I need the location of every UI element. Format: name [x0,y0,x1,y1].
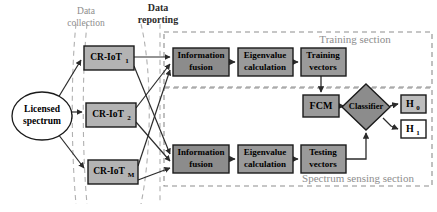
cr-iot-2-node[interactable]: CR-IoT 2 [86,103,136,127]
testing-vectors-label-line2: vectors [309,159,337,169]
information-fusion-training-label-line1: Information [178,50,225,60]
testing-vectors-node[interactable]: Testing vectors [301,145,346,173]
hypothesis-h1-node[interactable]: H 1 [401,120,426,138]
eigenvalue-calculation-training-node[interactable]: Eigenvalue calculation [238,48,293,76]
cr-iot-1-node[interactable]: CR-IoT 1 [84,46,134,70]
hypothesis-h0-node[interactable]: H 0 [401,95,426,113]
data-collection-label-line2: collection [67,18,105,28]
cr-iot-2-subscript: 2 [127,114,131,122]
cr-iot-1-subscript: 1 [125,57,129,65]
eigenvalue-calculation-sensing-node[interactable]: Eigenvalue calculation [238,145,293,173]
cr-iot-2-label: CR-IoT [92,109,124,119]
licensed-spectrum-label-line1: Licensed [24,104,61,114]
eigenvalue-calculation-training-label-line2: calculation [244,62,286,72]
eigenvalue-calculation-training-label-line1: Eigenvalue [244,50,287,60]
information-fusion-training-node[interactable]: Information fusion [173,48,229,76]
licensed-spectrum-node: Licensed spectrum [12,92,72,140]
cr-iot-m-node[interactable]: CR-IoT M [88,160,138,184]
information-fusion-sensing-label-line2: fusion [189,159,213,169]
training-section-label: Training section [319,33,391,45]
information-fusion-sensing-label-line1: Information [178,147,225,157]
cr-iot-m-label: CR-IoT [93,166,125,176]
hypothesis-h1-subscript: 1 [416,129,420,137]
information-fusion-sensing-node[interactable]: Information fusion [173,145,229,173]
eigenvalue-calculation-sensing-label-line2: calculation [244,159,286,169]
data-reporting-label-line1: Data [148,2,169,13]
training-vectors-node[interactable]: Training vectors [301,48,346,76]
hypothesis-h1-label: H [406,123,414,134]
cr-iot-1-label: CR-IoT [90,52,122,62]
hypothesis-h0-label: H [406,98,414,109]
testing-vectors-label-line1: Testing [309,147,337,157]
cr-iot-m-subscript: M [128,171,135,179]
cr-iot-spectrum-sensing-diagram: Training section Spectrum sensing sectio… [0,0,437,212]
training-vectors-label-line1: Training [306,50,340,60]
eigenvalue-calculation-sensing-label-line1: Eigenvalue [244,147,287,157]
data-reporting-label-line2: reporting [138,14,178,25]
classifier-label: Classifier [349,101,384,111]
data-collection-label-line1: Data [77,6,96,16]
fcm-node[interactable]: FCM [303,95,339,117]
licensed-spectrum-label-line2: spectrum [23,116,61,126]
information-fusion-training-label-line2: fusion [189,62,213,72]
hypothesis-h0-subscript: 0 [416,104,420,112]
training-vectors-label-line2: vectors [309,62,337,72]
fcm-label: FCM [310,100,333,111]
